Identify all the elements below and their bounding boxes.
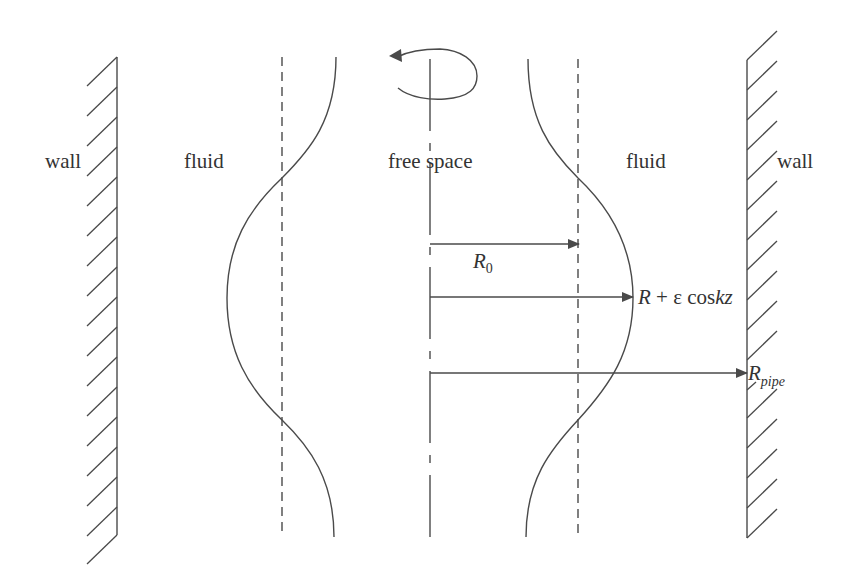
right-free-surface <box>526 59 633 537</box>
pipe-flow-diagram: wall fluid free space fluid wall R0 R + … <box>0 0 854 588</box>
left-wall <box>87 57 117 564</box>
right-wall-label: wall <box>777 149 813 173</box>
left-wall-label: wall <box>45 149 81 173</box>
right-fluid-label: fluid <box>626 149 666 173</box>
perturbed-radius-label: R + ε coskz <box>637 285 733 309</box>
rotation-arrow-icon <box>389 49 477 99</box>
left-fluid-label: fluid <box>184 149 224 173</box>
r-pipe-label: Rpipe <box>747 361 785 389</box>
r0-label: R0 <box>472 249 493 276</box>
free-space-label: free space <box>388 149 473 173</box>
right-wall <box>747 31 777 538</box>
left-wall-hatching <box>87 57 117 564</box>
right-wall-hatching <box>747 31 777 538</box>
